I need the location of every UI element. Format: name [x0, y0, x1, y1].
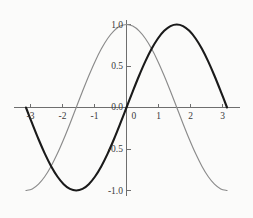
x-tick-label-0: 0 [132, 111, 137, 121]
x-tick-label-1: 1 [156, 111, 161, 121]
x-tick-label--2: -2 [59, 111, 67, 121]
y-tick-label-0.5: 0.5 [111, 61, 123, 71]
y-tick-label--1.0: -1.0 [108, 186, 123, 196]
y-tick-label-0.0: 0.0 [111, 102, 123, 112]
plot-canvas: -3 -2 -1 0 1 2 3 1.0 0.5 0.0 -0.5 -1.0 [0, 0, 253, 218]
plot-figure: -3 -2 -1 0 1 2 3 1.0 0.5 0.0 -0.5 -1.0 [0, 0, 253, 218]
x-tick-label--3: -3 [27, 111, 35, 121]
x-tick-label-2: 2 [188, 111, 193, 121]
x-tick-label-3: 3 [220, 111, 225, 121]
x-tick-label--1: -1 [91, 111, 99, 121]
y-tick-label--0.5: -0.5 [108, 144, 123, 154]
y-tick-label-1.0: 1.0 [111, 20, 123, 30]
